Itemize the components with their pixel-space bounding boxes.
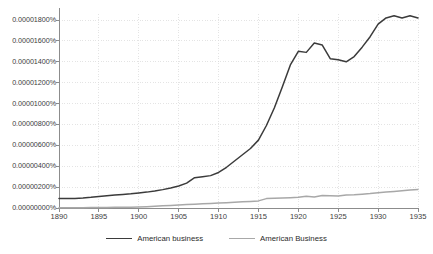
x-axis-tick-label: 1920 — [278, 212, 318, 221]
y-axis-tick-label: 0.00000200% — [0, 183, 56, 191]
data-series-lines — [59, 16, 418, 208]
y-axis-tick-label: 0.00001200% — [0, 79, 56, 87]
gridlines — [59, 14, 418, 208]
chart-legend: American businessAmerican Business — [0, 234, 433, 243]
legend-item[interactable]: American Business — [229, 234, 327, 243]
y-axis-tick-label: 0.00001600% — [0, 37, 56, 45]
tick-marks — [56, 20, 419, 212]
x-axis-tick-label: 1900 — [119, 212, 159, 221]
x-axis-tick-label: 1895 — [79, 212, 119, 221]
x-axis-tick-label: 1915 — [238, 212, 278, 221]
x-axis-tick-label: 1935 — [398, 212, 433, 221]
axis-lines — [59, 8, 418, 208]
x-axis-tick-label: 1925 — [318, 212, 358, 221]
legend-item[interactable]: American business — [106, 234, 203, 243]
legend-line-swatch — [229, 238, 255, 239]
y-axis-tick-label: 0.00001400% — [0, 58, 56, 66]
x-axis-tick-labels: 1890189519001905191019151920192519301935 — [0, 212, 433, 226]
y-axis-tick-label: 0.00001000% — [0, 100, 56, 108]
y-axis-tick-label: 0.00001800% — [0, 16, 56, 24]
line-chart: 0.00000000%0.00000200%0.00000400%0.00000… — [0, 0, 433, 254]
y-axis-tick-label: 0.00000400% — [0, 162, 56, 170]
x-axis-tick-label: 1890 — [39, 212, 79, 221]
y-axis-tick-label: 0.00000600% — [0, 141, 56, 149]
y-axis-tick-label: 0.00000000% — [0, 204, 56, 212]
legend-label: American business — [137, 234, 203, 243]
y-axis-tick-label: 0.00000800% — [0, 120, 56, 128]
x-axis-tick-label: 1910 — [199, 212, 239, 221]
x-axis-tick-label: 1905 — [159, 212, 199, 221]
x-axis-tick-label: 1930 — [358, 212, 398, 221]
legend-line-swatch — [106, 238, 132, 239]
legend-label: American Business — [260, 234, 327, 243]
